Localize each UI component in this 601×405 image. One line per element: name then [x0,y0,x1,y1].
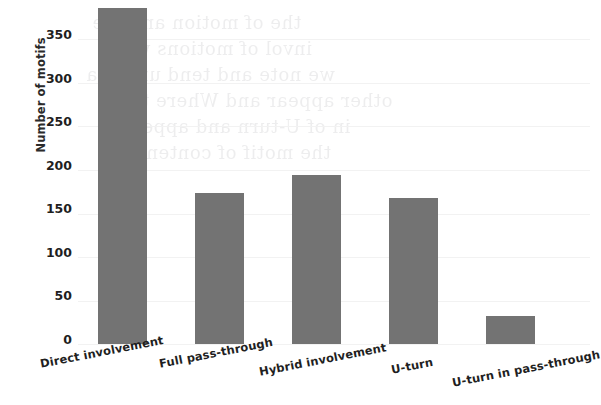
gridline-200 [78,170,590,171]
bar-full-pass-through[interactable] [195,193,244,344]
y-tick-label-300: 300 [30,71,72,86]
y-tick-label-0: 0 [30,332,72,347]
gridline-250 [78,126,590,127]
y-tick-label-150: 150 [30,201,72,216]
gridline-350 [78,39,590,40]
bar-u-turn[interactable] [389,198,438,344]
y-tick-label-200: 200 [30,158,72,173]
bar-direct-involvement[interactable] [98,8,147,344]
x-tick-label-u-turn-in-pass-through: U-turn in pass-through [451,347,601,389]
bar-hybrid-involvement[interactable] [292,175,341,344]
y-tick-label-100: 100 [30,245,72,260]
x-tick-label-u-turn: U-turn [390,355,434,377]
plot-area [78,8,590,345]
y-tick-label-50: 50 [30,288,72,303]
bar-u-turn-in-pass-through[interactable] [486,316,535,344]
x-tick-label-hybrid-involvement: Hybrid involvement [258,340,388,378]
y-tick-label-350: 350 [30,27,72,42]
gridline-300 [78,83,590,84]
y-tick-label-250: 250 [30,114,72,129]
